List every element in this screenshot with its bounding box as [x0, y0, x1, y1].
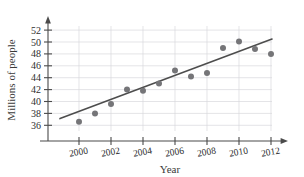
data-point [204, 70, 210, 76]
scatter-plot-figure: 52 50 48 46 44 42 40 38 36 2000 2002 200… [0, 0, 304, 177]
y-tick-label: 48 [31, 48, 41, 59]
y-tick-label: 42 [31, 84, 41, 95]
data-point [108, 101, 114, 107]
data-point [76, 119, 82, 125]
y-tick-label: 38 [31, 108, 41, 119]
data-point [236, 38, 242, 44]
data-point [268, 51, 274, 57]
chart-svg: 52 50 48 46 44 42 40 38 36 2000 2002 200… [0, 0, 304, 177]
y-tick-labels: 52 50 48 46 44 42 40 38 36 [31, 25, 41, 131]
y-tick-label: 50 [31, 37, 41, 48]
y-tick-label: 36 [31, 120, 41, 131]
y-tick-label: 44 [31, 72, 41, 83]
x-axis-title: Year [160, 163, 181, 175]
y-tick-label: 52 [31, 25, 41, 36]
y-axis-title: Millions of people [5, 39, 17, 120]
chart-background [0, 0, 304, 177]
data-point [156, 81, 162, 87]
y-tick-label: 40 [31, 96, 41, 107]
data-point [92, 110, 98, 116]
data-point [124, 87, 130, 93]
data-point [252, 46, 258, 52]
data-point [188, 74, 194, 80]
data-point [140, 88, 146, 94]
data-point [172, 68, 178, 74]
y-tick-label: 46 [31, 60, 41, 71]
data-point [220, 45, 226, 51]
